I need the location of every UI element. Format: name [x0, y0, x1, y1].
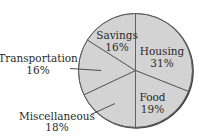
transportation-percent: 16% — [26, 64, 49, 76]
savings-label: Savings — [96, 29, 138, 41]
savings-percent: 16% — [105, 41, 128, 53]
food-percent: 19% — [141, 103, 164, 115]
housing-percent: 31% — [150, 57, 173, 69]
pie-chart: Housing 31% Food 19% Savings 16% Transpo… — [0, 0, 207, 139]
miscellaneous-percent: 18% — [45, 121, 68, 133]
transportation-label: Transportation — [0, 52, 78, 64]
housing-label: Housing — [140, 45, 185, 57]
food-label: Food — [139, 91, 165, 103]
